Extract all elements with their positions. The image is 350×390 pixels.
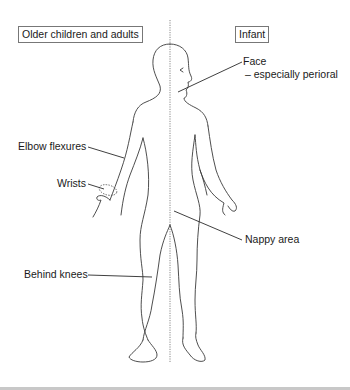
label-behind-knees: Behind knees <box>24 268 88 281</box>
nappy-leader-line <box>174 211 242 240</box>
label-nappy-area: Nappy area <box>245 233 299 246</box>
face-leader-line <box>178 62 242 92</box>
wrist-highlight-ellipse <box>98 183 118 197</box>
label-wrists: Wrists <box>57 177 86 190</box>
header-older-children-adults: Older children and adults <box>18 26 143 43</box>
eczema-distribution-diagram: Older children and adults Infant Face – … <box>0 0 350 390</box>
elbow-leader-line <box>88 147 124 158</box>
label-face-perioral: – especially perioral <box>245 68 338 81</box>
wrists-leader-line <box>88 184 104 189</box>
leader-lines <box>88 62 242 277</box>
header-infant: Infant <box>235 26 269 43</box>
body-outline <box>93 44 236 362</box>
body-outline-figure <box>0 0 350 390</box>
label-face: Face <box>243 55 266 68</box>
label-elbow-flexures: Elbow flexures <box>18 140 86 153</box>
